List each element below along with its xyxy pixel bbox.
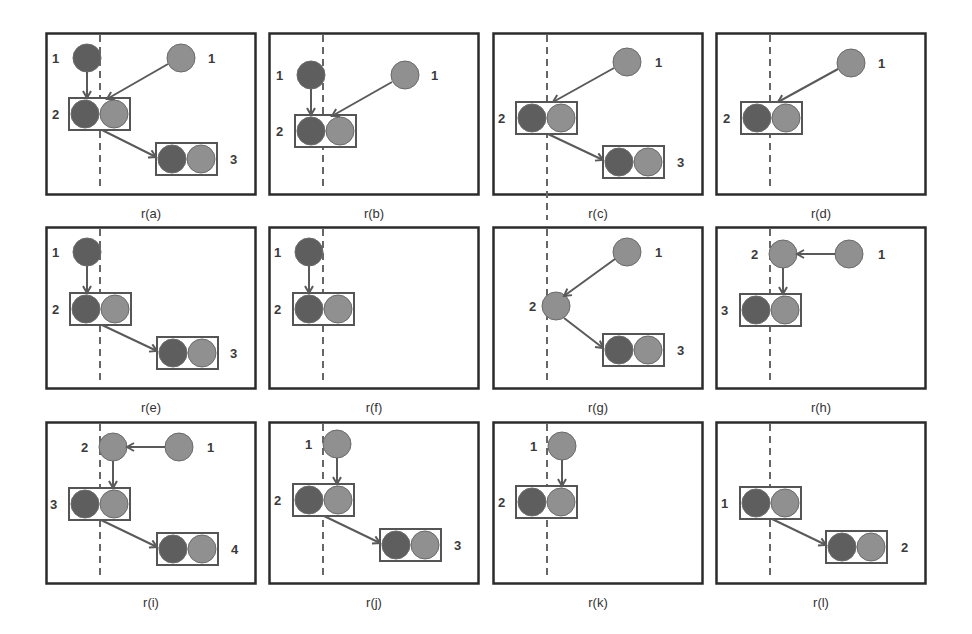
node-circle [391, 61, 419, 89]
light-node-circle [100, 100, 128, 128]
node-pair-box [157, 337, 218, 369]
panel-d: 12 [715, 32, 927, 196]
light-node-circle [188, 339, 216, 367]
node-step-label: 2 [498, 111, 505, 126]
light-node-circle [837, 49, 865, 77]
light-node-circle [634, 336, 662, 364]
node-step-label: 3 [677, 343, 684, 358]
dark-node-circle [742, 296, 770, 324]
panel-b: 112 [268, 32, 480, 196]
node-step-label: 1 [655, 55, 662, 70]
light-node-circle [547, 104, 575, 132]
panel-caption: r(g) [492, 400, 704, 415]
node-step-label: 2 [901, 540, 908, 555]
panel-caption: r(l) [715, 595, 927, 610]
panel-caption: r(b) [268, 206, 480, 221]
node-step-label: 1 [276, 68, 283, 83]
node-step-label: 3 [721, 303, 728, 318]
node-step-label: 1 [721, 496, 728, 511]
node-circle [769, 240, 797, 268]
panel-caption: r(k) [492, 595, 704, 610]
panel-e: 123 [45, 226, 257, 390]
light-node-circle [771, 296, 799, 324]
light-node-circle [769, 240, 797, 268]
node-pair-box [740, 294, 801, 326]
panel-diagram: 123 [268, 421, 480, 585]
dark-node-circle [73, 44, 101, 72]
node-pair-box [516, 102, 577, 134]
light-node-circle [634, 148, 662, 176]
node-step-label: 1 [208, 51, 215, 66]
panel-caption: r(c) [492, 206, 704, 221]
light-node-circle [772, 104, 800, 132]
node-circle [548, 432, 576, 460]
panel-diagram: 112 [268, 32, 480, 196]
node-step-label: 1 [274, 245, 281, 260]
panel-diagram: 12 [268, 226, 480, 390]
node-circle [542, 292, 570, 320]
panel-diagram: 123 [45, 226, 257, 390]
panel-caption: r(f) [268, 400, 480, 415]
panel-diagram: 12 [715, 421, 927, 585]
node-step-label: 1 [305, 437, 312, 452]
node-pair-box [826, 531, 887, 563]
panel-h: 213 [715, 226, 927, 390]
node-circle [295, 238, 323, 266]
node-step-label: 3 [677, 155, 684, 170]
node-circle [99, 433, 127, 461]
dark-node-circle [72, 295, 100, 323]
light-node-circle [613, 48, 641, 76]
node-step-label: 3 [50, 497, 57, 512]
light-node-circle [167, 44, 195, 72]
node-circle [837, 49, 865, 77]
node-pair-box [69, 488, 130, 520]
node-step-label: 1 [52, 51, 59, 66]
node-step-label: 2 [276, 124, 283, 139]
dark-node-circle [605, 336, 633, 364]
node-step-label: 2 [498, 495, 505, 510]
node-pair-box [516, 486, 577, 518]
dark-node-circle [295, 295, 323, 323]
light-node-circle [548, 432, 576, 460]
dark-node-circle [73, 238, 101, 266]
light-node-circle [100, 490, 128, 518]
node-step-label: 1 [655, 245, 662, 260]
light-node-circle [391, 61, 419, 89]
dark-node-circle [159, 339, 187, 367]
dark-node-circle [382, 531, 410, 559]
dark-node-circle [605, 148, 633, 176]
node-pair-box [603, 334, 664, 366]
dark-node-circle [743, 104, 771, 132]
panel-j: 123 [268, 421, 480, 585]
node-pair-box [69, 98, 130, 130]
panel-caption: r(h) [715, 400, 927, 415]
panel-diagram: 2134 [45, 421, 257, 585]
panel-a: 1123 [45, 32, 257, 196]
node-pair-box [70, 293, 131, 325]
dark-node-circle [295, 238, 323, 266]
node-step-label: 2 [274, 493, 281, 508]
node-step-label: 1 [530, 439, 537, 454]
light-node-circle [835, 240, 863, 268]
light-node-circle [165, 433, 193, 461]
light-node-circle [542, 292, 570, 320]
node-circle [613, 238, 641, 266]
node-pair-box [380, 529, 441, 561]
light-node-circle [326, 117, 354, 145]
panel-i: 2134 [45, 421, 257, 585]
node-circle [835, 240, 863, 268]
dark-node-circle [828, 533, 856, 561]
dark-node-circle [159, 535, 187, 563]
node-pair-box [293, 293, 354, 325]
dark-node-circle [297, 117, 325, 145]
node-pair-box [295, 115, 356, 147]
node-pair-box [741, 102, 802, 134]
panel-caption: r(e) [45, 400, 257, 415]
node-pair-box [293, 484, 354, 516]
node-step-label: 2 [723, 111, 730, 126]
panel-diagram: 123 [492, 32, 704, 196]
node-circle [165, 433, 193, 461]
light-node-circle [188, 535, 216, 563]
panel-k: 12 [492, 421, 704, 585]
panel-diagram: 1123 [45, 32, 257, 196]
